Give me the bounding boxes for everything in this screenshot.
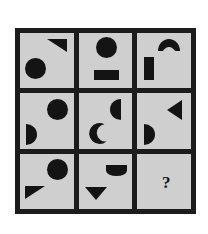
puzzle-canvas: ? bbox=[0, 0, 208, 234]
circle-full bbox=[47, 159, 68, 180]
rectangle-horizontal bbox=[94, 70, 119, 80]
triangle-pointing-left bbox=[167, 100, 182, 120]
cell-r3c3-answer[interactable]: ? bbox=[137, 154, 191, 209]
crescent-arc-opening-down bbox=[157, 36, 181, 52]
cell-r3c1[interactable] bbox=[20, 154, 74, 209]
question-mark-label: ? bbox=[137, 154, 191, 209]
triangle-pointing-down bbox=[85, 187, 107, 200]
cell-r3c2[interactable] bbox=[79, 154, 133, 209]
circle-full bbox=[96, 37, 117, 58]
half-circle-bulge-down bbox=[106, 165, 127, 176]
cell-r2c3[interactable] bbox=[137, 93, 191, 148]
half-circle-bulge-right bbox=[144, 124, 155, 145]
cell-r1c1[interactable] bbox=[20, 33, 74, 88]
rectangle-vertical bbox=[144, 57, 154, 80]
circle-full bbox=[25, 58, 46, 79]
cell-r1c2[interactable] bbox=[79, 33, 133, 88]
cell-r1c3[interactable] bbox=[137, 33, 191, 88]
half-circle-bulge-left bbox=[110, 99, 121, 120]
circle-full bbox=[47, 99, 68, 120]
cell-r2c1[interactable] bbox=[20, 93, 74, 148]
cell-r2c2[interactable] bbox=[79, 93, 133, 148]
matrix-grid: ? bbox=[15, 28, 196, 214]
triangle-down-right bbox=[25, 186, 45, 199]
triangle-down-left bbox=[47, 39, 67, 52]
half-circle-bulge-right bbox=[26, 124, 37, 145]
crescent-opening-upper-right bbox=[88, 122, 110, 145]
